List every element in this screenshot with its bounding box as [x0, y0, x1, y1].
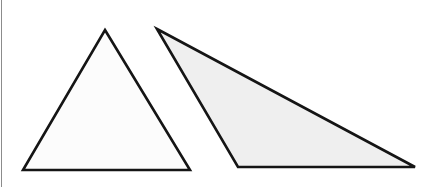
- figure-canvas: [0, 0, 440, 187]
- triangles-illustration: [0, 0, 440, 187]
